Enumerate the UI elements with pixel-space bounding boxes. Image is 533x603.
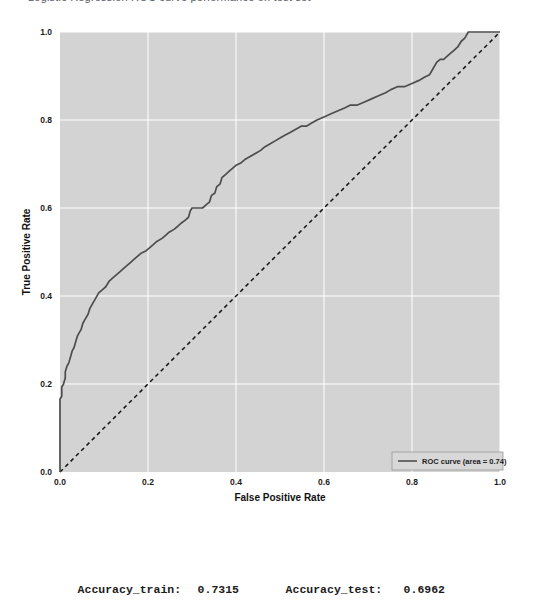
x-tick-label: 0.4 xyxy=(230,477,242,487)
x-tick-label: 0.0 xyxy=(54,477,66,487)
y-tick-label: 0.6 xyxy=(40,203,52,213)
metric-value-accuracy-train: 0.7315 xyxy=(198,582,286,599)
legend-label: ROC curve (area = 0.74) xyxy=(422,457,507,466)
roc-curve-figure: 0.00.20.40.60.81.0 0.00.20.40.60.81.0 Fa… xyxy=(0,12,533,507)
chart-legend[interactable]: ROC curve (area = 0.74) xyxy=(392,452,507,470)
x-tick-label: 0.6 xyxy=(318,477,330,487)
clipped-caption-strip: Logistic Regression ROC curve performanc… xyxy=(0,0,533,12)
y-tick-label: 0.8 xyxy=(40,115,52,125)
clipped-caption-text: Logistic Regression ROC curve performanc… xyxy=(28,0,311,3)
y-tick-label: 0.0 xyxy=(40,467,52,477)
metric-label-accuracy-test: Accuracy_test: xyxy=(286,582,404,599)
x-tick-label: 0.2 xyxy=(142,477,154,487)
y-tick-label: 0.2 xyxy=(40,379,52,389)
x-tick-label: 1.0 xyxy=(494,477,506,487)
roc-plot-svg: 0.00.20.40.60.81.0 0.00.20.40.60.81.0 Fa… xyxy=(0,12,533,507)
y-tick-label: 1.0 xyxy=(40,27,52,37)
metrics-row: Accuracy_train:0.7315Accuracy_test:0.696… xyxy=(50,566,520,603)
metric-label-accuracy-train: Accuracy_train: xyxy=(78,582,198,599)
x-tick-label: 0.8 xyxy=(406,477,418,487)
metric-value-accuracy-test: 0.6962 xyxy=(404,582,492,599)
metrics-summary-block: Accuracy_train:0.7315Accuracy_test:0.696… xyxy=(50,516,520,603)
y-axis-title: True Positive Rate xyxy=(21,208,32,295)
x-axis-title: False Positive Rate xyxy=(234,492,326,503)
y-tick-label: 0.4 xyxy=(40,291,52,301)
